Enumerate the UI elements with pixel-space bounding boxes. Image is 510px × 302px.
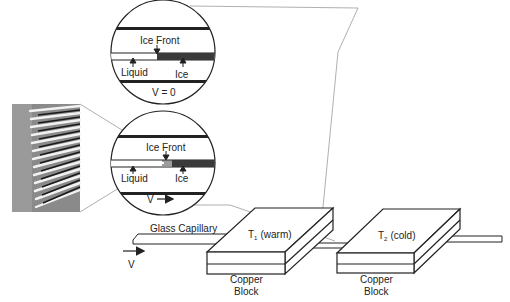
capillary-velocity-label: V [128,259,135,270]
block1-label-line2: Block [234,286,259,297]
directional-freezing-diagram: Ice Front Liquid Ice V = 0 Ice Front Liq… [0,0,510,302]
copper-block-warm [207,208,333,274]
ice-label: Ice [175,69,189,80]
ice-front-label: Ice Front [140,35,180,46]
block2-label-line1: Copper [360,274,393,285]
velocity-zero-label: V = 0 [152,87,176,98]
zoom-circle-moving: Ice Front Liquid Ice V [100,111,230,215]
ice-label: Ice [175,173,189,184]
velocity-label: V [147,194,154,205]
zoom-circle-static: Ice Front Liquid Ice V = 0 [100,0,230,104]
liquid-label: Liquid [121,173,148,184]
copper-block-cold [337,209,460,273]
micrograph-image [12,104,80,212]
liquid-label: Liquid [121,67,148,78]
block2-label-line2: Block [364,286,389,297]
block1-label-line1: Copper [230,274,263,285]
block2-temperature: T2(cold) [378,230,415,242]
glass-capillary-label: Glass Capillary [150,223,217,234]
